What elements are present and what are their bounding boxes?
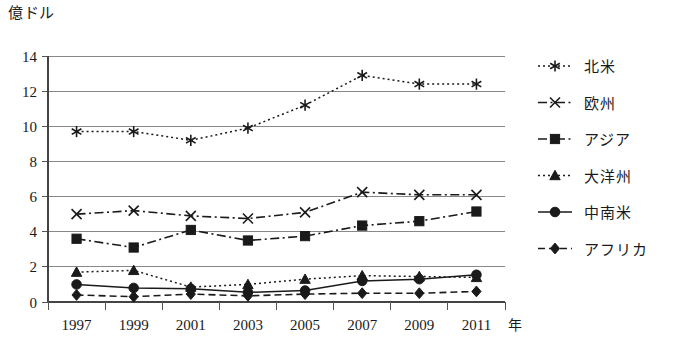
y-tick-label: 2: [30, 259, 38, 275]
data-point: [129, 291, 138, 302]
legend-item-2[interactable]: 欧州: [538, 96, 616, 112]
data-point: [72, 126, 82, 137]
x-axis-ticks: 19971999200120032005200720092011年: [48, 302, 522, 333]
data-point: [72, 280, 82, 290]
series-3: [72, 207, 481, 252]
data-point: [72, 290, 81, 301]
legend-label: アフリカ: [584, 242, 648, 258]
legend-label: アジア: [584, 132, 631, 148]
legend-item-3[interactable]: アジア: [538, 132, 631, 148]
legend-item-5[interactable]: 中南米: [538, 205, 632, 221]
data-point: [243, 236, 252, 245]
data-point: [415, 288, 424, 299]
legend-item-6[interactable]: アフリカ: [538, 242, 648, 258]
data-point: [300, 100, 310, 111]
x-tick-label: 1997: [62, 317, 93, 333]
x-tick-label: 2005: [290, 317, 320, 333]
data-point: [472, 286, 481, 297]
x-tick-label: 2003: [233, 317, 263, 333]
y-tick-label: 4: [30, 224, 38, 240]
data-point: [357, 70, 367, 81]
data-point: [300, 274, 310, 283]
line-chart: 億ドル 024681012141997199920012003200520072…: [0, 0, 680, 361]
axes: [48, 56, 505, 302]
data-point: [300, 232, 309, 241]
legend-marker: [550, 207, 560, 217]
data-point: [415, 274, 425, 284]
data-point: [129, 243, 138, 252]
x-tick-label: 2009: [404, 317, 434, 333]
data-point: [186, 225, 195, 234]
x-tick-label: 2007: [347, 317, 378, 333]
y-tick-label: 14: [22, 49, 38, 65]
legend: 北米欧州アジア大洋州中南米アフリカ: [538, 59, 648, 258]
data-point: [472, 270, 482, 280]
data-point: [415, 217, 424, 226]
x-tick-label: 1999: [119, 317, 149, 333]
series-1: [72, 70, 482, 146]
y-gridlines: 02468101214: [22, 49, 505, 311]
legend-item-4[interactable]: 大洋州: [538, 169, 632, 185]
legend-marker: [550, 134, 559, 143]
legend-label: 大洋州: [584, 169, 632, 185]
y-tick-label: 6: [30, 189, 38, 205]
y-tick-label: 8: [30, 154, 38, 170]
legend-label: 北米: [584, 59, 616, 75]
chart-plot-area: 0246810121419971999200120032005200720092…: [0, 0, 680, 361]
x-tick-label: 2001: [176, 317, 206, 333]
y-tick-label: 10: [22, 119, 37, 135]
legend-item-1[interactable]: 北米: [538, 59, 616, 75]
legend-marker: [550, 243, 559, 254]
data-point: [472, 207, 481, 216]
data-point: [71, 267, 81, 276]
data-point: [72, 234, 81, 243]
data-point: [358, 221, 367, 230]
data-point: [358, 288, 367, 299]
legend-label: 中南米: [584, 205, 632, 221]
data-point: [357, 276, 367, 286]
y-tick-label: 12: [22, 84, 37, 100]
x-tick-label: 2011: [462, 317, 491, 333]
data-point: [300, 207, 310, 217]
legend-label: 欧州: [584, 96, 616, 112]
y-tick-label: 0: [30, 295, 38, 311]
x-axis-unit-label: 年: [508, 318, 522, 333]
